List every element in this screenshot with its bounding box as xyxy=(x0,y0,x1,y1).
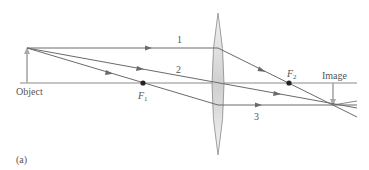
focal-label-f1: F1 xyxy=(137,90,148,103)
ray-3-tail xyxy=(333,101,357,105)
image-label: Image xyxy=(322,70,348,81)
ray-3-arrowhead-out xyxy=(255,103,262,108)
ray-1-arrowhead-out xyxy=(258,67,267,73)
panel-label: (a) xyxy=(16,154,27,166)
ray-1-arrowhead-in xyxy=(145,46,152,51)
focal-label-f2: F2 xyxy=(286,68,297,81)
converging-lens xyxy=(212,13,224,155)
ray-diagram-canvas: 1 2 3 F1 F2 Object Image (a) xyxy=(0,0,369,170)
focal-point-f2 xyxy=(286,80,291,85)
focal-point-f1 xyxy=(140,80,145,85)
ray-2-label: 2 xyxy=(176,64,181,75)
ray-2-arrowhead-in xyxy=(136,66,144,71)
ray-1-label: 1 xyxy=(177,34,182,45)
ray-3-label: 3 xyxy=(254,111,259,122)
image-arrow xyxy=(330,83,336,106)
ray-3-arrowhead-in xyxy=(105,70,113,75)
object-arrow xyxy=(24,47,30,83)
ray-2 xyxy=(27,48,357,108)
object-label: Object xyxy=(16,86,43,97)
ray-diagram: 1 2 3 F1 F2 Object Image (a) xyxy=(0,0,369,170)
